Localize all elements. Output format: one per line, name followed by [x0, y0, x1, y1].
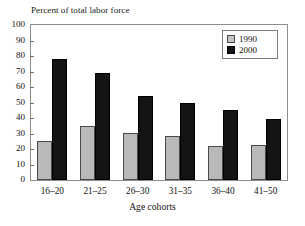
- bar-2000-41-50: [266, 119, 281, 180]
- y-tick-mark: [30, 134, 34, 135]
- y-tick-mark: [30, 41, 34, 42]
- y-tick-label: 70: [16, 66, 25, 75]
- bar-2000-16-20: [52, 59, 67, 180]
- legend-label: 2000: [239, 45, 257, 55]
- bar-chart-figure: Percent of total labor force 10090807060…: [0, 0, 305, 226]
- bar-2000-21-25: [95, 73, 110, 180]
- y-tick-mark: [30, 103, 34, 104]
- x-tick-label: 16–20: [41, 186, 64, 197]
- light-gray-square-icon: [227, 35, 235, 43]
- bar-group: [116, 25, 159, 180]
- black-square-icon: [227, 46, 235, 54]
- y-tick-label: 100: [12, 20, 26, 29]
- x-tick-label: 36–40: [211, 186, 234, 197]
- legend-item-2000: 2000: [227, 44, 274, 55]
- bar-1990-41-50: [251, 145, 266, 180]
- bar-group: [74, 25, 117, 180]
- x-axis: 16–2021–2526–3031–3536–4041–50: [31, 186, 287, 198]
- x-axis-title: Age cohorts: [0, 201, 305, 212]
- bar-1990-36-40: [208, 146, 223, 180]
- y-tick-mark: [30, 149, 34, 150]
- x-tick-label: 41–50: [254, 186, 277, 197]
- x-tick-label: 31–35: [169, 186, 192, 197]
- bar-group: [31, 25, 74, 180]
- y-axis: 1009080706050403020100: [0, 24, 28, 181]
- y-tick-label: 0: [21, 175, 26, 184]
- bar-1990-16-20: [37, 141, 52, 180]
- bar-2000-26-30: [138, 96, 153, 180]
- y-tick-mark: [30, 165, 34, 166]
- legend-item-1990: 1990: [227, 33, 274, 44]
- y-tick-label: 20: [16, 144, 25, 153]
- bar-2000-36-40: [223, 110, 238, 180]
- bar-1990-31-35: [165, 136, 180, 180]
- bar-2000-31-35: [180, 103, 195, 180]
- chart-title: Percent of total labor force: [31, 5, 129, 16]
- y-tick-label: 80: [16, 51, 25, 60]
- y-tick-label: 30: [16, 128, 25, 137]
- x-tick-label: 26–30: [126, 186, 149, 197]
- bar-1990-26-30: [123, 133, 138, 180]
- bar-1990-21-25: [80, 126, 95, 180]
- y-tick-mark: [30, 118, 34, 119]
- y-tick-label: 50: [16, 97, 25, 106]
- y-tick-label: 60: [16, 82, 25, 91]
- y-tick-label: 90: [16, 35, 25, 44]
- y-tick-mark: [30, 87, 34, 88]
- bar-group: [159, 25, 202, 180]
- y-tick-label: 40: [16, 113, 25, 122]
- legend-label: 1990: [239, 34, 257, 44]
- chart-legend: 19902000: [222, 30, 278, 59]
- y-tick-label: 10: [16, 159, 25, 168]
- y-tick-mark: [30, 56, 34, 57]
- y-tick-mark: [30, 72, 34, 73]
- x-tick-label: 21–25: [83, 186, 106, 197]
